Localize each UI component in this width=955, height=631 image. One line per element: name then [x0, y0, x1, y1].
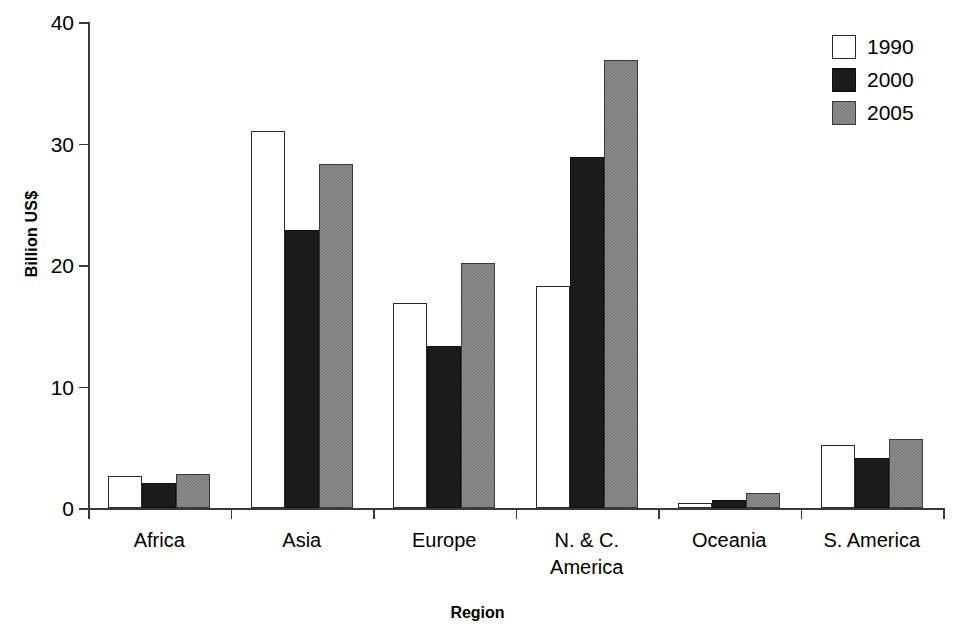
x-tick-mark	[231, 508, 233, 519]
y-tick-label: 30	[51, 133, 74, 157]
x-category-label: Africa	[88, 527, 231, 554]
bar-2000-samerica	[855, 458, 889, 508]
bar-1990-samerica	[821, 445, 855, 508]
plot-area: 010203040	[88, 22, 943, 508]
x-axis-title: Region	[0, 604, 955, 622]
x-category-label: N. & C. America	[516, 527, 659, 581]
y-tick-label: 0	[62, 497, 74, 521]
y-axis-title: Billion US$	[23, 164, 41, 304]
legend-item-2000: 2000	[832, 63, 914, 96]
legend-item-1990: 1990	[832, 30, 914, 63]
x-tick-mark	[373, 508, 375, 519]
y-tick-label: 10	[51, 376, 74, 400]
legend-label-2005: 2005	[867, 101, 914, 125]
y-tick-label: 20	[51, 254, 74, 278]
legend-label-1990: 1990	[867, 35, 914, 59]
x-category-label: S. America	[801, 527, 944, 554]
y-tick-mark	[79, 22, 88, 24]
y-tick-mark	[79, 265, 88, 267]
legend-item-2005: 2005	[832, 96, 914, 129]
bar-chart: Billion US$ 010203040 AfricaAsiaEuropeN.…	[0, 0, 955, 631]
x-tick-mark	[943, 508, 945, 519]
legend-swatch-icon-2000	[832, 68, 856, 92]
x-tick-mark	[658, 508, 660, 519]
legend: 1990 2000 2005	[832, 30, 914, 129]
x-category-label: Europe	[373, 527, 516, 554]
y-tick-label: 40	[51, 11, 74, 35]
legend-swatch-icon-1990	[832, 35, 856, 59]
y-tick-mark	[79, 508, 88, 510]
legend-label-2000: 2000	[867, 68, 914, 92]
x-tick-mark	[801, 508, 803, 519]
legend-swatch-icon-2005	[832, 101, 856, 125]
bar-2005-samerica	[889, 439, 923, 508]
x-tick-mark	[516, 508, 518, 519]
x-category-label: Oceania	[658, 527, 801, 554]
y-tick-mark	[79, 144, 88, 146]
x-category-label: Asia	[231, 527, 374, 554]
bar-group	[88, 22, 943, 508]
x-tick-mark	[88, 508, 90, 519]
y-tick-mark	[79, 387, 88, 389]
